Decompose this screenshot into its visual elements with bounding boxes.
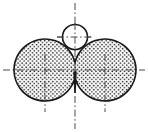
cam-profile-figure (0, 0, 148, 132)
technical-drawing-canvas (0, 0, 148, 132)
